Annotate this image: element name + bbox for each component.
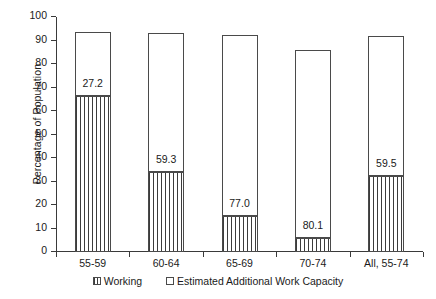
bar-segment-working[interactable] [222, 216, 258, 252]
bar-segment-working[interactable] [295, 238, 331, 252]
y-axis-tick-label: 40 [35, 150, 47, 162]
y-axis-tick: 60 [51, 110, 56, 111]
y-axis-tick-label: 0 [41, 244, 47, 256]
plot-area: 0102030405060708090100 27.259.377.080.15… [56, 17, 423, 252]
y-axis-tick: 100 [51, 16, 56, 17]
hatched-swatch-icon [93, 277, 101, 285]
bar-stack[interactable]: 80.1 [295, 50, 331, 252]
chart-container: Percentage of Population 010203040506070… [0, 0, 436, 299]
bar-segment-capacity[interactable]: 77.0 [222, 35, 258, 216]
legend-item[interactable]: Working [93, 275, 142, 287]
y-axis-tick-label: 90 [35, 33, 47, 45]
y-axis-tick-label: 80 [35, 56, 47, 68]
white-swatch-icon [166, 277, 174, 285]
bar-value-label: 77.0 [223, 197, 257, 209]
y-axis-tick: 90 [51, 40, 56, 41]
bar-value-label: 59.3 [149, 153, 183, 165]
legend-item[interactable]: Estimated Additional Work Capacity [166, 275, 343, 287]
bar-segment-working[interactable] [368, 176, 404, 252]
bar-stack[interactable]: 59.5 [368, 36, 404, 252]
bar-stack[interactable]: 59.3 [148, 33, 184, 252]
y-axis-tick-label: 10 [35, 221, 47, 233]
bar-segment-capacity[interactable]: 80.1 [295, 50, 331, 238]
y-axis-tick-label: 50 [35, 127, 47, 139]
x-axis-tick [129, 252, 130, 257]
bar-value-label: 80.1 [296, 219, 330, 231]
chart-legend: WorkingEstimated Additional Work Capacit… [0, 275, 436, 287]
legend-item-label: Working [104, 275, 142, 287]
x-axis-tick-label: 70-74 [299, 257, 326, 269]
x-axis-tick [350, 252, 351, 257]
bar-segment-working[interactable] [75, 96, 111, 252]
y-axis-tick: 80 [51, 63, 56, 64]
bar-value-label: 59.5 [369, 157, 403, 169]
y-axis-title: Percentage of Population [31, 24, 43, 224]
x-axis-tick-label: All, 55-74 [364, 257, 408, 269]
bar-value-label: 27.2 [76, 77, 110, 89]
x-axis-tick [203, 252, 204, 257]
bar-stack[interactable]: 77.0 [222, 35, 258, 252]
x-axis-tick [423, 252, 424, 257]
bar-segment-capacity[interactable]: 59.5 [368, 36, 404, 176]
bar-stack[interactable]: 27.2 [75, 32, 111, 252]
legend-item-label: Estimated Additional Work Capacity [177, 275, 343, 287]
x-axis-tick [56, 252, 57, 257]
x-axis-tick-label: 60-64 [153, 257, 180, 269]
y-axis-tick: 30 [51, 181, 56, 182]
y-axis-tick: 20 [51, 204, 56, 205]
y-axis-tick-label: 100 [29, 9, 47, 21]
y-axis-line [56, 17, 57, 252]
y-axis-tick: 70 [51, 87, 56, 88]
x-axis-tick-label: 65-69 [226, 257, 253, 269]
y-axis-tick: 50 [51, 134, 56, 135]
x-axis-tick [276, 252, 277, 257]
y-axis-tick-label: 30 [35, 174, 47, 186]
bar-segment-capacity[interactable]: 27.2 [75, 32, 111, 96]
y-axis-tick-label: 60 [35, 103, 47, 115]
y-axis-tick-label: 20 [35, 197, 47, 209]
x-axis-tick-label: 55-59 [79, 257, 106, 269]
y-axis-tick: 10 [51, 228, 56, 229]
y-axis-tick-label: 70 [35, 80, 47, 92]
bar-segment-working[interactable] [148, 172, 184, 252]
bar-segment-capacity[interactable]: 59.3 [148, 33, 184, 172]
y-axis-tick: 40 [51, 157, 56, 158]
